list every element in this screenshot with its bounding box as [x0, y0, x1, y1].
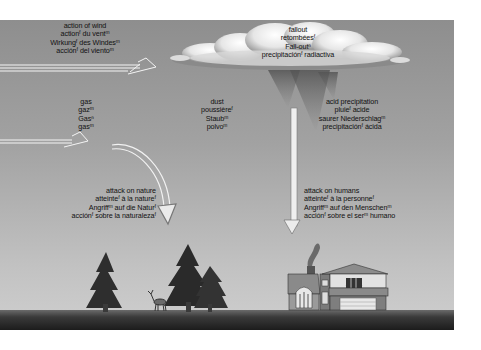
house-icon: [288, 244, 388, 311]
wind-arrow-icon: [0, 58, 156, 74]
gas-arrow-icon: [0, 132, 88, 147]
pollution-diagram: action of wind actionᶠ du ventᵐ Wirkungᶠ…: [0, 20, 454, 330]
humans-arrow-icon: [284, 108, 300, 234]
label-gas: gas gazᵐ Gasⁿ gasᵐ: [78, 98, 93, 132]
deer-icon: [148, 290, 166, 311]
label-dust: dust poussièreᶠ Staubᵐ polvoᵐ: [201, 98, 233, 132]
label-acid-precipitation: acid precipitation pluieᶠ acide saurer N…: [319, 98, 385, 132]
label-attack-on-humans: attack on humans atteinteᶠ à la personne…: [304, 187, 395, 221]
label-action-of-wind: action of wind actionᶠ du ventᵐ Wirkungᶠ…: [50, 22, 120, 56]
ground: [0, 310, 454, 330]
label-attack-on-nature: attack on nature atteinteᶠ à la natureᶠ …: [72, 187, 156, 221]
illustration: [0, 20, 454, 330]
label-fallout: fallout retombéesᶠ Fall-outⁿ precipitaci…: [262, 26, 334, 60]
tree-icon: [86, 252, 122, 312]
